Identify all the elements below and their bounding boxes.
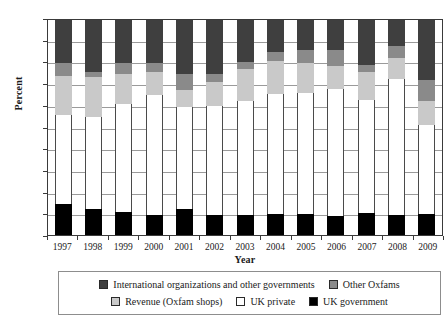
stacked-bar <box>115 20 132 235</box>
stacked-bar <box>388 20 405 235</box>
bar-segment <box>237 20 254 62</box>
legend-row: Revenue (Oxfam shops)UK privateUK govern… <box>65 293 434 310</box>
x-axis-tick-mark <box>382 236 383 240</box>
x-axis-tick-label: 2006 <box>321 241 351 253</box>
bar-segment <box>146 20 163 63</box>
x-axis-tick-label: 2001 <box>169 241 199 253</box>
bar-segment <box>55 20 72 63</box>
legend-swatch-uk-government <box>309 297 318 306</box>
bar-segment <box>418 80 435 102</box>
x-axis-tick-label: 2003 <box>230 241 260 253</box>
legend-item[interactable]: International organizations and other go… <box>99 279 314 290</box>
legend-swatch-international-organizations <box>99 280 108 289</box>
bar-column <box>48 20 78 235</box>
bar-segment <box>85 77 102 117</box>
x-axis-tick-mark <box>47 236 48 240</box>
legend-label: International organizations and other go… <box>113 279 314 290</box>
bar-column <box>381 20 411 235</box>
bar-segment <box>388 215 405 235</box>
bar-segment <box>115 63 132 74</box>
bar-segment <box>297 50 314 62</box>
bar-column <box>351 20 381 235</box>
x-axis-tick-mark <box>108 236 109 240</box>
bar-segment <box>55 63 72 76</box>
stacked-bar <box>327 20 344 235</box>
bar-segment <box>206 74 223 83</box>
x-axis-tick-label: 1997 <box>47 241 77 253</box>
bar-segment <box>327 20 344 50</box>
bar-column <box>78 20 108 235</box>
bar-column <box>230 20 260 235</box>
bar-segment <box>388 46 405 58</box>
bar-segment <box>85 20 102 72</box>
legend-label: UK private <box>250 296 295 307</box>
bar-column <box>321 20 351 235</box>
bar-segment <box>267 20 284 52</box>
bar-segment <box>358 20 375 65</box>
x-axis-tick-mark <box>291 236 292 240</box>
x-axis-tick-mark <box>352 236 353 240</box>
bar-segment <box>418 214 435 235</box>
legend-swatch-revenue-oxfam-shops <box>111 297 120 306</box>
bar-segment <box>55 115 72 204</box>
bar-segment <box>358 213 375 235</box>
x-axis-tick-labels: 1997199819992000200120022003200420052006… <box>47 241 443 253</box>
stacked-bar <box>146 20 163 235</box>
bar-segment <box>327 66 344 90</box>
y-axis-title: Percent <box>13 54 24 134</box>
bar-segment <box>176 20 193 74</box>
legend-swatch-uk-private <box>236 297 245 306</box>
bar-segment <box>206 215 223 235</box>
x-axis-tick-label: 2007 <box>352 241 382 253</box>
legend-item[interactable]: Other Oxfams <box>329 279 400 290</box>
x-axis-tick-mark <box>413 236 414 240</box>
bar-segment <box>55 76 72 115</box>
stacked-bar <box>297 20 314 235</box>
bar-segment <box>55 204 72 235</box>
stacked-bar <box>267 20 284 235</box>
bar-column <box>139 20 169 235</box>
bar-segment <box>206 106 223 215</box>
bar-segment <box>115 104 132 212</box>
bar-segment <box>85 209 102 235</box>
bar-segment <box>327 50 344 65</box>
stacked-bar <box>206 20 223 235</box>
bar-segment <box>267 52 284 61</box>
bar-segment <box>115 212 132 235</box>
bar-segment <box>418 125 435 214</box>
bar-segment <box>115 20 132 63</box>
x-axis-tick-label: 2000 <box>138 241 168 253</box>
bar-segment <box>237 215 254 235</box>
legend-label: UK government <box>323 296 388 307</box>
bar-segment <box>237 69 254 100</box>
bar-column <box>260 20 290 235</box>
legend-item[interactable]: UK private <box>236 296 295 307</box>
x-axis-tick-label: 2005 <box>291 241 321 253</box>
bar-segment <box>388 79 405 216</box>
legend-item[interactable]: Revenue (Oxfam shops) <box>111 296 222 307</box>
x-axis-tick-mark <box>77 236 78 240</box>
bar-segment <box>388 20 405 46</box>
bar-segment <box>297 63 314 93</box>
bar-segment <box>388 58 405 79</box>
bar-segment <box>115 74 132 104</box>
bar-segment <box>206 82 223 106</box>
bar-segment <box>327 216 344 235</box>
stacked-bar <box>176 20 193 235</box>
bar-segment <box>267 94 284 214</box>
bar-column <box>291 20 321 235</box>
plot-area <box>47 19 443 236</box>
bar-column <box>412 20 442 235</box>
legend-row: International organizations and other go… <box>65 276 434 293</box>
legend-label: Revenue (Oxfam shops) <box>125 296 222 307</box>
bar-segment <box>327 89 344 216</box>
bar-segment <box>237 101 254 216</box>
stacked-bar <box>237 20 254 235</box>
bar-segment <box>176 90 193 107</box>
x-axis-tick-label: 2008 <box>382 241 412 253</box>
x-axis-title: Year <box>47 254 443 265</box>
bar-segment <box>146 72 163 96</box>
bar-segment <box>146 63 163 72</box>
legend-item[interactable]: UK government <box>309 296 388 307</box>
x-axis-tick-mark <box>169 236 170 240</box>
